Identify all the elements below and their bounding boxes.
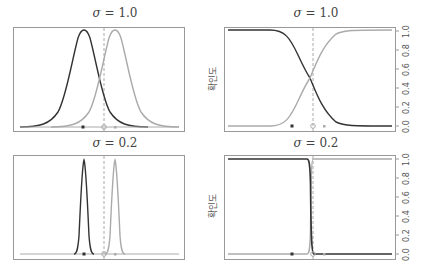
y-tick-label: 1.0 bbox=[402, 153, 411, 166]
posterior-curve-light-tr bbox=[228, 30, 392, 126]
y-tick-label: 1.0 bbox=[402, 25, 411, 38]
y-tick-label: 0.0 bbox=[402, 120, 411, 133]
plot-frame-bl bbox=[14, 156, 185, 260]
density-curve-light-bl bbox=[105, 160, 125, 254]
y-tick-label: 0.6 bbox=[402, 63, 411, 76]
density-curve-light-tl bbox=[51, 30, 179, 127]
y-tick-label: 0.6 bbox=[402, 191, 411, 204]
marker-light-square-br bbox=[323, 253, 326, 256]
marker-light-square-tl bbox=[114, 126, 117, 129]
marker-dark-square-tl bbox=[82, 126, 85, 129]
y-tick-label: 0.4 bbox=[402, 82, 411, 95]
density-curve-dark-bl bbox=[74, 160, 94, 254]
chart-canvas bbox=[0, 0, 423, 273]
y-tick-label: 0.0 bbox=[402, 248, 411, 261]
y-tick-label: 0.8 bbox=[402, 172, 411, 185]
marker-light-square-bl bbox=[114, 253, 117, 256]
marker-dark-square-tr bbox=[291, 125, 294, 128]
marker-dark-square-br bbox=[291, 253, 294, 256]
y-tick-label: 0.2 bbox=[402, 229, 411, 242]
y-tick-label: 0.2 bbox=[402, 101, 411, 114]
marker-dark-square-bl bbox=[83, 253, 86, 256]
y-tick-label: 0.8 bbox=[402, 44, 411, 57]
y-tick-label: 0.4 bbox=[402, 210, 411, 223]
marker-light-square-tr bbox=[323, 125, 326, 128]
density-curve-dark-tl bbox=[20, 30, 148, 127]
